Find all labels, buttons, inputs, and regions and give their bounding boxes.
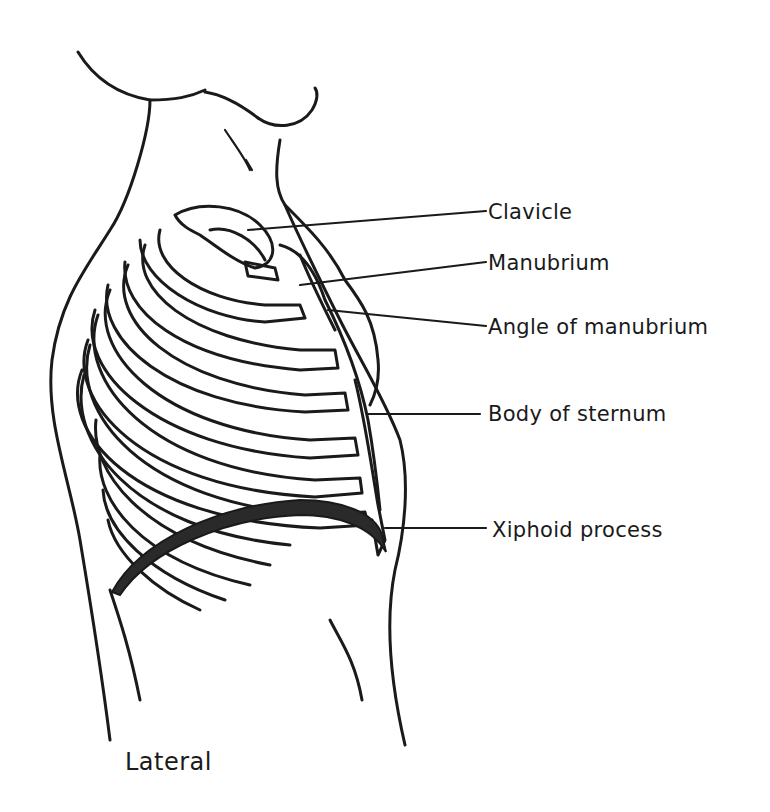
- label-body-of-sternum: Body of sternum: [488, 402, 667, 426]
- torso-outline: [51, 52, 406, 745]
- label-manubrium: Manubrium: [488, 251, 610, 275]
- label-angle-of-manubrium: Angle of manubrium: [488, 315, 708, 339]
- caption-lateral: Lateral: [125, 748, 212, 776]
- rib-cage: [78, 206, 368, 610]
- label-clavicle: Clavicle: [488, 200, 572, 224]
- label-xiphoid-process: Xiphoid process: [492, 518, 663, 542]
- anatomy-diagram: Clavicle Manubrium Angle of manubrium Bo…: [0, 0, 770, 812]
